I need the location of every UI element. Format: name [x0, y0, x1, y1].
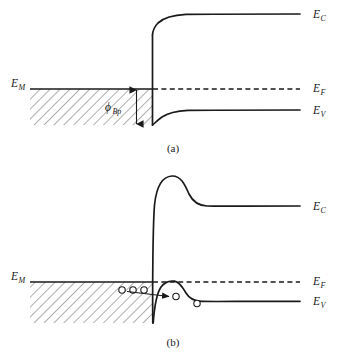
panel-caption-b: (b)	[167, 336, 180, 349]
hole-in-metal-1	[119, 287, 125, 293]
hole-in-valence-band	[194, 300, 200, 306]
panel-b: EM EC EF EV (b)	[10, 176, 327, 349]
fermi-level-label-b: EF	[312, 275, 326, 290]
hole-injected	[173, 293, 179, 299]
conduction-band-label-a: EC	[312, 8, 327, 23]
fermi-level-label-a: EF	[312, 82, 326, 97]
metal-level-label-b: EM	[10, 270, 27, 285]
valence-band-curve-a	[153, 110, 301, 125]
valence-band-label-b: EV	[312, 295, 327, 310]
valence-band-label-a: EV	[312, 104, 327, 119]
panel-caption-a: (a)	[167, 142, 180, 155]
metal-level-label-a: EM	[10, 77, 27, 92]
band-diagram-svg: ϕBp EM EC EF EV (a)	[0, 0, 349, 353]
valence-band-curve-b	[153, 281, 300, 323]
conduction-band-label-b: EC	[312, 200, 327, 215]
barrier-subscript: Bp	[112, 107, 121, 116]
hole-in-metal-3	[141, 287, 147, 293]
barrier-symbol: ϕ	[105, 101, 111, 114]
band-diagram-figure: ϕBp EM EC EF EV (a)	[0, 0, 349, 353]
conduction-band-curve-a	[153, 14, 301, 35]
metal-hatch-region-a	[30, 89, 152, 125]
panel-a: ϕBp EM EC EF EV (a)	[10, 8, 327, 155]
